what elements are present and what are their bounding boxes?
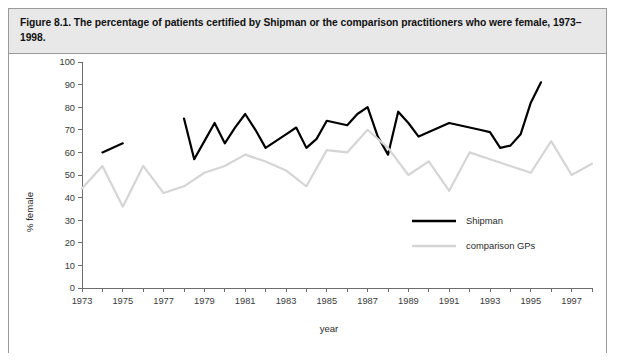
x-tick-label: 1977 — [153, 296, 174, 306]
x-axis: 1973197519771979198119831985198719891991… — [72, 288, 592, 306]
x-tick-label: 1979 — [194, 296, 215, 306]
figure-caption: Figure 8.1. The percentage of patients c… — [20, 16, 596, 45]
data-series-group — [82, 82, 592, 206]
chart-plot-area: 0102030405060708090100 19731975197719791… — [9, 54, 606, 353]
figure-caption-bar: Figure 8.1. The percentage of patients c… — [9, 9, 606, 54]
line-chart: 0102030405060708090100 19731975197719791… — [9, 54, 608, 352]
figure-container: Figure 8.1. The percentage of patients c… — [8, 8, 607, 353]
y-tick-label: 50 — [65, 170, 75, 180]
y-tick-label: 80 — [65, 103, 75, 113]
series-line-shipman — [102, 143, 122, 152]
x-tick-label: 1983 — [276, 296, 297, 306]
x-tick-label: 1981 — [235, 296, 256, 306]
y-axis: 0102030405060708090100 — [59, 57, 82, 293]
legend-label: Shipman — [466, 215, 503, 226]
series-line-shipman — [184, 82, 541, 159]
y-tick-label: 40 — [65, 193, 75, 203]
y-tick-label: 30 — [65, 216, 75, 226]
y-tick-label: 70 — [65, 125, 75, 135]
y-tick-label: 90 — [65, 80, 75, 90]
x-tick-label: 1973 — [72, 296, 93, 306]
y-tick-label: 20 — [65, 238, 75, 248]
x-tick-label: 1991 — [439, 296, 460, 306]
x-tick-label: 1987 — [357, 296, 378, 306]
legend-label: comparison GPs — [466, 240, 536, 251]
x-tick-label: 1989 — [398, 296, 419, 306]
y-tick-label: 60 — [65, 148, 75, 158]
x-axis-title: year — [320, 323, 339, 334]
y-tick-label: 10 — [65, 261, 75, 271]
y-tick-label: 100 — [59, 57, 75, 67]
x-tick-label: 1997 — [561, 296, 582, 306]
y-axis-title: % female — [24, 192, 35, 232]
chart-legend: Shipmancomparison GPs — [412, 215, 536, 251]
y-tick-label: 0 — [70, 283, 75, 293]
x-tick-label: 1993 — [480, 296, 501, 306]
x-tick-label: 1985 — [316, 296, 337, 306]
x-tick-label: 1975 — [112, 296, 133, 306]
x-tick-label: 1995 — [520, 296, 541, 306]
